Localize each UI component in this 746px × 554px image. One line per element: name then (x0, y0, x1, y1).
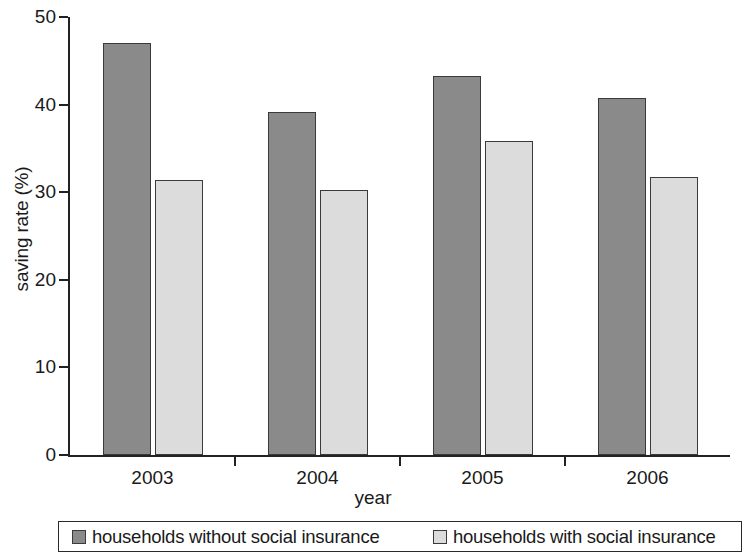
bar-2005-series-1 (485, 141, 533, 455)
legend-swatch-series-0 (72, 530, 86, 544)
bar-2006-series-1 (650, 177, 698, 455)
x-axis-tick-mark (564, 457, 566, 466)
bar-2003-series-1 (155, 180, 203, 455)
x-axis-tick-mark (399, 457, 401, 466)
bar-2004-series-0 (268, 112, 316, 455)
x-axis-tick-mark (234, 457, 236, 466)
x-axis-tick-label: 2006 (598, 467, 698, 489)
y-axis-tick-mark (59, 104, 68, 106)
bar-2004-series-1 (320, 190, 368, 455)
x-axis-title: year (0, 487, 746, 509)
legend-label-series-0: households without social insurance (92, 526, 379, 548)
legend-label-series-1: households with social insurance (453, 526, 715, 548)
bar-2005-series-0 (433, 76, 481, 455)
bar-2006-series-0 (598, 98, 646, 455)
bar-chart-figure: saving rate (%) 01020304050 200320042005… (0, 0, 746, 554)
y-axis-tick-mark (59, 279, 68, 281)
x-axis-tick-label: 2005 (433, 467, 533, 489)
legend-item-with-social-insurance: households with social insurance (433, 522, 715, 551)
y-axis-tick-mark (59, 16, 68, 18)
x-axis-tick-label: 2003 (103, 467, 203, 489)
plot-area: 2003200420052006 (0, 0, 746, 554)
legend-item-without-social-insurance: households without social insurance (72, 522, 379, 551)
y-axis-tick-mark (59, 454, 68, 456)
bar-2003-series-0 (103, 43, 151, 455)
y-axis-tick-mark (59, 366, 68, 368)
legend-swatch-series-1 (433, 530, 447, 544)
chart-legend: households without social insurance hous… (58, 521, 742, 552)
x-axis-tick-label: 2004 (268, 467, 368, 489)
y-axis-tick-mark (59, 191, 68, 193)
